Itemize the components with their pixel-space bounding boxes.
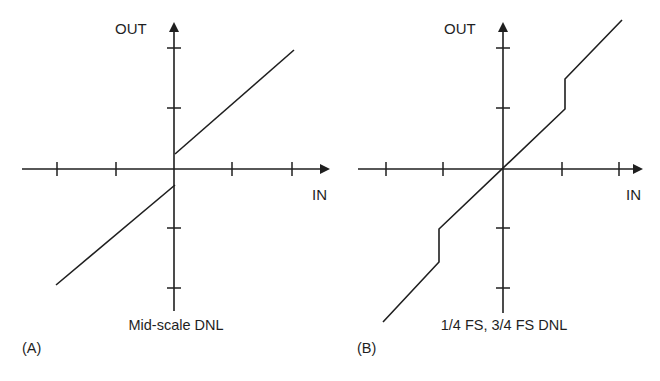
panel-b-x-arrow-icon bbox=[633, 164, 643, 174]
panel-a-tag: (A) bbox=[22, 340, 41, 356]
panel-a-caption: Mid-scale DNL bbox=[128, 317, 223, 333]
panel-a-x-axis-label: IN bbox=[312, 187, 327, 203]
panel-a-upper-transfer-line bbox=[175, 50, 294, 154]
panel-a-y-axis-label: OUT bbox=[115, 21, 147, 37]
panel-b-y-arrow-icon bbox=[498, 22, 508, 32]
panel-b-x-axis-label: IN bbox=[626, 187, 641, 203]
panel-a-y-arrow-icon bbox=[169, 22, 179, 32]
panel-a-x-arrow-icon bbox=[320, 164, 330, 174]
panel-b-tag: (B) bbox=[357, 340, 376, 356]
panel-a-lower-transfer-line bbox=[56, 185, 175, 285]
panel-b-y-axis-label: OUT bbox=[444, 21, 476, 37]
panel-b-caption: 1/4 FS, 3/4 FS DNL bbox=[441, 317, 568, 333]
